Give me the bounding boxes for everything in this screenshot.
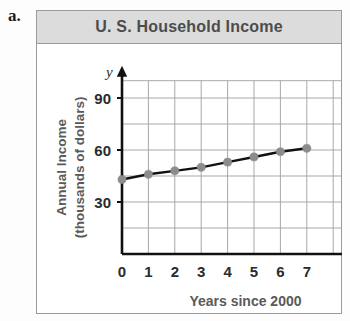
figure-title-bar: U. S. Household Income [36,10,342,44]
x-axis-tick-label: 6 [276,263,284,280]
data-point [303,144,311,152]
y-axis-title-line1: Annual Income [54,118,69,215]
data-point [171,167,179,175]
problem-label: a. [8,6,21,26]
data-point [224,158,232,166]
figure-title: U. S. Household Income [95,18,283,36]
y-axis-tick-label: 60 [94,142,111,159]
x-axis-tick-label: 1 [144,263,152,280]
data-point [144,170,152,178]
figure-root: a. U. S. Household Income 3060 [0,0,350,321]
horizontal-gridlines [122,98,342,228]
y-axis-tick-labels: 306090 [94,90,111,211]
x-axis-title: Years since 2000 [189,293,301,309]
chart-plot-area: 306090 01234567 y x Years since 2000 Ann… [36,44,342,314]
data-point [197,163,205,171]
y-axis-tick-label: 90 [94,90,111,107]
x-axis-tick-label: 4 [223,263,232,280]
x-axis-tick-label: 5 [250,263,258,280]
x-axis-tick-label: 7 [303,263,311,280]
y-axis-title-line2: (thousands of dollars) [72,96,87,238]
y-axis-arrow [117,66,127,77]
x-axis-tick-label: 3 [197,263,205,280]
x-axis-tick-label: 0 [118,263,126,280]
y-axis-variable-label: y [104,64,113,80]
x-axis-tick-label: 2 [171,263,179,280]
data-point [118,175,126,183]
data-point [276,148,284,156]
x-axis-tick-labels: 01234567 [118,263,311,280]
y-axis-tick-label: 30 [94,194,111,211]
data-point [250,153,258,161]
line-chart: 306090 01234567 y x Years since 2000 Ann… [36,44,342,314]
